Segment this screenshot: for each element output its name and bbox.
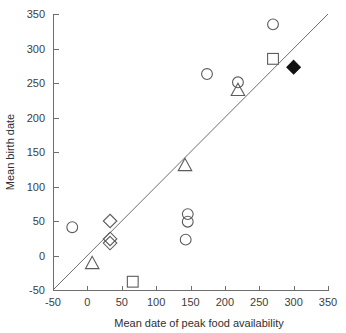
x-axis-title: Mean date of peak food availability xyxy=(114,317,284,329)
y-axis-tick-labels: -50050100150200250300350 xyxy=(27,8,45,296)
data-point-open-square xyxy=(127,276,138,287)
data-point-open-square xyxy=(268,53,279,64)
identity-reference-line xyxy=(53,14,328,290)
y-axis-title: Mean birth date xyxy=(4,114,16,190)
plot-canvas: -50050100150200250300350 -50050100150200… xyxy=(0,0,346,333)
y-tick-label: 200 xyxy=(27,112,45,124)
data-point-open-diamond xyxy=(103,232,117,246)
x-tick-label: 100 xyxy=(147,296,165,308)
data-point-open-circle xyxy=(202,69,213,80)
y-tick-label: 250 xyxy=(27,77,45,89)
identity-reference-line xyxy=(53,14,328,290)
y-tick-label: 350 xyxy=(27,8,45,20)
x-tick-label: 200 xyxy=(216,296,234,308)
y-tick-label: 300 xyxy=(27,43,45,55)
scatter-plot-figure: -50050100150200250300350 -50050100150200… xyxy=(0,0,346,333)
x-axis-tick-labels: -50050100150200250300350 xyxy=(45,296,337,308)
x-tick-label: 250 xyxy=(250,296,268,308)
y-tick-label: 100 xyxy=(27,181,45,193)
data-point-open-triangle xyxy=(85,256,99,268)
y-tick-label: -50 xyxy=(29,284,45,296)
data-point-filled-diamond xyxy=(287,60,301,73)
x-tick-label: 150 xyxy=(181,296,199,308)
x-tick-label: 0 xyxy=(84,296,90,308)
x-tick-label: 300 xyxy=(284,296,302,308)
x-tick-label: -50 xyxy=(45,296,61,308)
data-point-open-circle xyxy=(182,216,193,227)
data-point-open-triangle xyxy=(178,158,192,170)
data-point-open-circle xyxy=(180,234,191,245)
axis-ticks xyxy=(54,15,329,291)
x-tick-label: 50 xyxy=(116,296,128,308)
data-point-open-circle xyxy=(67,222,78,233)
x-tick-label: 350 xyxy=(319,296,337,308)
data-point-open-diamond xyxy=(103,236,117,250)
data-markers xyxy=(67,19,301,287)
data-point-open-circle xyxy=(268,19,279,30)
y-tick-label: 150 xyxy=(27,146,45,158)
y-tick-label: 0 xyxy=(39,250,45,262)
data-point-open-diamond xyxy=(103,214,117,228)
y-tick-label: 50 xyxy=(33,215,45,227)
